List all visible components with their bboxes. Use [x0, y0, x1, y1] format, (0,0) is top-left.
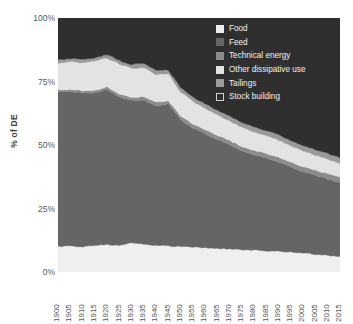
x-tick-label: 1920: [102, 278, 110, 322]
x-tick-label: 1905: [65, 278, 73, 322]
x-tick-label: 1960: [200, 278, 208, 322]
x-tick-label: 1910: [78, 278, 86, 322]
y-tick-label: 0%: [15, 268, 55, 276]
x-tick-label: 1950: [176, 278, 184, 322]
x-tick-label: 1980: [249, 278, 257, 322]
x-tick-label: 1995: [286, 278, 294, 322]
x-tick-label: 1925: [115, 278, 123, 322]
legend-swatch-icon: [216, 25, 224, 33]
x-tick-label: 1900: [53, 278, 61, 322]
chart-legend: FoodFeedTechnical energyOther dissipativ…: [216, 22, 340, 104]
x-tick-label: 2010: [323, 278, 331, 322]
x-tick-label: 1930: [127, 278, 135, 322]
legend-item-food[interactable]: Food: [216, 22, 340, 36]
legend-item-other-dissipative-use[interactable]: Other dissipative use: [216, 63, 340, 77]
legend-item-tailings[interactable]: Tailings: [216, 76, 340, 90]
x-tick-label: 1970: [225, 278, 233, 322]
legend-item-stock-building[interactable]: Stock building: [216, 90, 340, 104]
y-tick-label: 50%: [15, 141, 55, 149]
x-tick-label: 1915: [90, 278, 98, 322]
x-tick-label: 2000: [298, 278, 306, 322]
x-tick-label: 1985: [262, 278, 270, 322]
x-tick-label: 1975: [237, 278, 245, 322]
legend-swatch-icon: [216, 52, 224, 60]
stacked-area-chart: % of DE 100%75%50%25%0% 1900190519101915…: [0, 0, 353, 324]
legend-swatch-icon: [216, 93, 224, 101]
y-tick-label: 100%: [15, 14, 55, 22]
x-tick-label: 1940: [151, 278, 159, 322]
x-tick-label: 2015: [335, 278, 343, 322]
x-axis-ticks: 1900190519101915192019251930193519401945…: [58, 274, 340, 322]
legend-swatch-icon: [216, 66, 224, 74]
y-tick-label: 25%: [15, 205, 55, 213]
y-tick-label: 75%: [15, 78, 55, 86]
x-tick-label: 1955: [188, 278, 196, 322]
legend-item-label: Food: [229, 24, 248, 33]
x-tick-label: 1935: [139, 278, 147, 322]
legend-item-label: Feed: [229, 38, 248, 47]
legend-item-label: Stock building: [229, 92, 280, 101]
legend-item-feed[interactable]: Feed: [216, 36, 340, 50]
x-tick-label: 1965: [213, 278, 221, 322]
x-tick-label: 1945: [164, 278, 172, 322]
legend-item-technical-energy[interactable]: Technical energy: [216, 49, 340, 63]
legend-item-label: Technical energy: [229, 51, 290, 60]
legend-swatch-icon: [216, 38, 224, 46]
x-tick-label: 1990: [274, 278, 282, 322]
x-tick-label: 2005: [311, 278, 319, 322]
y-axis-ticks: 100%75%50%25%0%: [10, 0, 55, 324]
legend-item-label: Tailings: [229, 79, 256, 88]
legend-swatch-icon: [216, 79, 224, 87]
legend-item-label: Other dissipative use: [229, 65, 305, 74]
